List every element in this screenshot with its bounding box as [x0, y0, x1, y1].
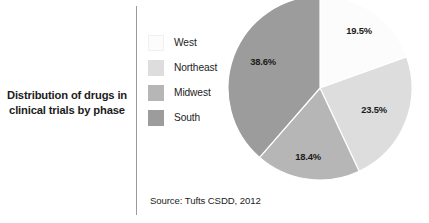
legend-item-northeast[interactable]: Northeast	[148, 55, 228, 80]
legend-item-west[interactable]: West	[148, 30, 228, 55]
pie-chart-svg: 19.5%23.5%18.4%38.6%	[222, 0, 422, 190]
chart-legend: West Northeast Midwest South	[148, 30, 228, 130]
chart-figure: Distribution of drugs in clinical trials…	[0, 0, 429, 223]
legend-swatch-south	[148, 110, 164, 126]
legend-item-midwest[interactable]: Midwest	[148, 80, 228, 105]
pie-slice-label-west: 19.5%	[346, 25, 372, 36]
legend-swatch-northeast	[148, 60, 164, 76]
pie-slice-label-midwest: 18.4%	[295, 151, 321, 162]
legend-item-south[interactable]: South	[148, 105, 228, 130]
vertical-divider	[136, 6, 137, 215]
figure-caption: Distribution of drugs in clinical trials…	[0, 88, 134, 118]
legend-label-west: West	[174, 37, 197, 48]
legend-swatch-midwest	[148, 85, 164, 101]
page-title: Distribution of drugs in clinical trials…	[0, 88, 134, 118]
pie-slice-label-south: 38.6%	[250, 56, 276, 67]
source-note: Source: Tufts CSDD, 2012	[150, 195, 261, 206]
pie-chart: 19.5%23.5%18.4%38.6%	[222, 0, 422, 190]
legend-label-midwest: Midwest	[174, 87, 211, 98]
pie-slice-label-northeast: 23.5%	[361, 104, 387, 115]
legend-label-south: South	[174, 112, 200, 123]
legend-swatch-west	[148, 35, 164, 51]
legend-label-northeast: Northeast	[174, 62, 217, 73]
